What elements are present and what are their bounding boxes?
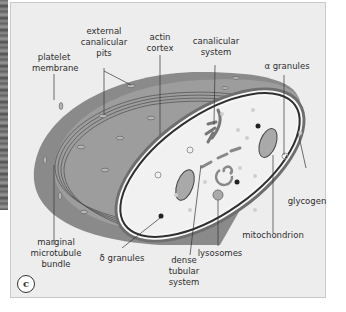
panel-letter-badge: c (17, 275, 35, 293)
label-actin-cortex: actin cortex (142, 32, 178, 54)
lysosome (213, 190, 223, 200)
label-mitochondrion: mitochondrion (240, 230, 306, 241)
label-delta-granules: δ granules (96, 253, 148, 264)
label-marginal-microtubule-bundle: marginal microtubule bundle (28, 237, 84, 270)
label-canalicular-system: canalicular system (190, 36, 242, 58)
label-dense-tubular-system: dense tubular system (164, 255, 204, 288)
label-alpha-granules: α granules (262, 61, 312, 72)
label-external-canalicular-pits: external canalicular pits (78, 26, 130, 59)
label-platelet-membrane: platelet membrane (32, 52, 76, 74)
label-glycogen: glycogen (286, 196, 328, 207)
